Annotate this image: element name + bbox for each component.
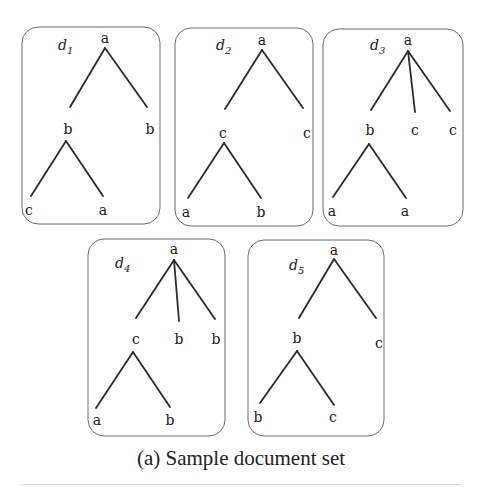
- tree-edge: [297, 351, 334, 405]
- tree-edge: [225, 50, 262, 109]
- tree-node-a: a: [93, 412, 101, 428]
- tree-node-c: c: [449, 122, 457, 138]
- document-label: d2: [216, 37, 231, 56]
- tree-node-a: a: [258, 32, 266, 48]
- tree-edge: [262, 50, 303, 108]
- tree-edge: [333, 144, 369, 197]
- document-label: d1: [58, 37, 73, 56]
- tree-node-a: a: [170, 241, 178, 257]
- document-box: [248, 240, 384, 436]
- tree-edge: [174, 260, 179, 321]
- document-label: d4: [115, 255, 130, 274]
- tree-node-b: b: [64, 121, 73, 137]
- tree-node-b: b: [175, 331, 184, 347]
- document-tree-d5: d5abcbc: [248, 240, 384, 436]
- horizontal-rule: [22, 484, 462, 485]
- tree-edge: [334, 259, 376, 318]
- tree-node-a: a: [99, 202, 107, 218]
- tree-node-b: b: [146, 121, 155, 137]
- tree-node-a: a: [401, 203, 409, 219]
- tree-edge: [70, 48, 105, 107]
- tree-edge: [260, 351, 297, 403]
- tree-node-c: c: [375, 335, 383, 351]
- tree-node-b: b: [366, 122, 375, 138]
- document-box: [88, 239, 225, 436]
- tree-edge: [133, 352, 170, 407]
- document-tree-d4: d4acbbab: [88, 239, 225, 436]
- tree-node-a: a: [101, 30, 109, 46]
- tree-edge: [96, 352, 133, 408]
- figure-caption: (a) Sample document set: [0, 446, 482, 471]
- tree-node-b: b: [293, 330, 302, 346]
- tree-edge: [105, 48, 147, 107]
- tree-edge: [188, 143, 224, 198]
- document-tree-d1: d1abbca: [22, 27, 160, 224]
- document-box: [22, 27, 160, 224]
- tree-node-a: a: [404, 32, 412, 48]
- document-tree-d2: d2accab: [175, 28, 313, 226]
- tree-node-a: a: [328, 203, 336, 219]
- document-set-figure: d1abbcad2accabd3abccaad4acbbabd5abcbc: [0, 0, 482, 487]
- tree-node-c: c: [219, 125, 227, 141]
- document-box: [323, 29, 463, 226]
- tree-node-a: a: [330, 242, 338, 258]
- document-tree-d3: d3abccaa: [323, 29, 463, 226]
- document-box: [175, 28, 313, 226]
- tree-edge: [66, 141, 103, 196]
- document-label: d5: [289, 257, 304, 276]
- tree-node-c: c: [329, 409, 337, 425]
- tree-edge: [224, 143, 261, 198]
- tree-node-b: b: [254, 409, 263, 425]
- tree-edge: [371, 51, 408, 110]
- tree-node-b: b: [212, 331, 221, 347]
- tree-node-c: c: [25, 202, 33, 218]
- tree-node-a: a: [182, 204, 190, 220]
- tree-edge: [136, 260, 174, 318]
- tree-node-b: b: [257, 204, 266, 220]
- tree-node-c: c: [411, 122, 419, 138]
- document-label: d3: [370, 37, 385, 56]
- tree-node-c: c: [132, 331, 140, 347]
- tree-node-c: c: [303, 125, 311, 141]
- tree-edge: [31, 141, 66, 196]
- tree-node-b: b: [166, 412, 175, 428]
- tree-edge: [369, 144, 406, 198]
- tree-edge: [174, 260, 215, 319]
